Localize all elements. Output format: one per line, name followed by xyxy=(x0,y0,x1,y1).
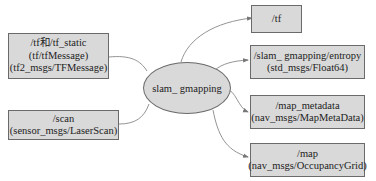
topic-name: /map xyxy=(297,148,318,161)
topic-scan[interactable]: /scan (sensor_msgs/LaserScan) xyxy=(8,110,119,140)
topic-tf[interactable]: /tf xyxy=(251,5,302,33)
slam-gmapping-node[interactable]: slam_ gmapping xyxy=(143,62,231,114)
topic-name: /tf xyxy=(272,13,281,26)
node-label: slam_ gmapping xyxy=(152,83,222,94)
topic-map[interactable]: /map (nav_msgs/OccupancyGrid) xyxy=(250,143,365,177)
topic-map-metadata[interactable]: /map_metadata (nav_msgs/MapMetaData) xyxy=(250,95,365,129)
topic-name: /slam_ gmapping/entropy xyxy=(254,50,362,63)
edge-slam-to-entropy xyxy=(215,60,248,70)
edge-slam-to-map xyxy=(213,110,248,157)
topic-slam-gmapping-entropy[interactable]: /slam_ gmapping/entropy (std_msgs/Float6… xyxy=(250,45,365,79)
edge-slam-to-tf xyxy=(181,18,252,62)
topic-type: (tf/tfMessage) xyxy=(29,50,88,63)
topic-name: /map_metadata xyxy=(275,100,339,113)
edge-tf-to-slam xyxy=(109,57,147,71)
edge-scan-to-slam xyxy=(119,104,149,124)
topic-type: (std_msgs/Float64) xyxy=(267,62,348,75)
topic-tf-tf-static[interactable]: /tf和/tf_static (tf/tfMessage) (tf2_msgs/… xyxy=(8,33,109,79)
topic-type: (nav_msgs/MapMetaData) xyxy=(251,112,364,125)
topic-name: /scan xyxy=(53,113,75,126)
topic-type: (tf2_msgs/TFMessage) xyxy=(10,62,107,75)
topic-type: (sensor_msgs/LaserScan) xyxy=(10,125,117,138)
topic-type: (nav_msgs/OccupancyGrid) xyxy=(248,160,366,173)
topic-name: /tf和/tf_static xyxy=(30,37,86,50)
